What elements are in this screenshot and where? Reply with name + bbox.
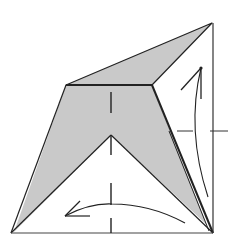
unfold-left-arrow-icon [65,201,185,223]
origami-diagram: origami-fold-diagram [0,0,230,239]
diagram-svg [0,0,230,239]
top-flap [66,23,212,85]
